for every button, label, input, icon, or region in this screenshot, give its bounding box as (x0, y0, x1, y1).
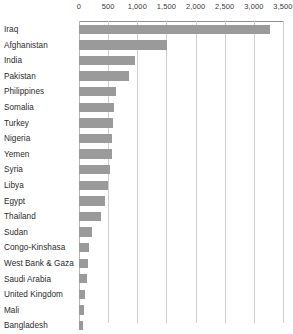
bar-track (79, 318, 283, 334)
chart-rows: IraqAfghanistanIndiaPakistanPhilippinesS… (0, 22, 292, 323)
x-axis-tick-label: 1,000 (128, 2, 147, 11)
bar[interactable] (79, 243, 89, 252)
x-axis-tick-label: 2,000 (186, 2, 205, 11)
bar-track (79, 209, 283, 225)
chart-row: West Bank & Gaza (0, 256, 292, 272)
bar-track (79, 116, 283, 132)
chart-row: Turkey (0, 116, 292, 132)
x-axis-tick-label: 3,500 (273, 2, 292, 11)
bar-track (79, 225, 283, 241)
category-label: Libya (4, 180, 24, 191)
bar-track (79, 69, 283, 85)
category-label: United Kingdom (4, 289, 63, 300)
category-label: Saudi Arabia (4, 274, 51, 285)
bar[interactable] (79, 71, 129, 80)
category-label: Somalia (4, 102, 34, 113)
x-axis-tick-label: 500 (102, 2, 115, 11)
bar[interactable] (79, 259, 88, 268)
category-label: Philippines (4, 86, 44, 97)
bar-track (79, 38, 283, 54)
bar-track (79, 240, 283, 256)
bar[interactable] (79, 196, 105, 205)
bar-track (79, 131, 283, 147)
bar-track (79, 178, 283, 194)
bar[interactable] (79, 305, 84, 314)
category-label: Syria (4, 164, 23, 175)
x-axis-tick-label: 2,500 (215, 2, 234, 11)
bar-track (79, 22, 283, 38)
category-label: Pakistan (4, 71, 36, 82)
chart-row: Nigeria (0, 131, 292, 147)
chart-row: United Kingdom (0, 287, 292, 303)
bar[interactable] (79, 40, 167, 49)
chart-row: India (0, 53, 292, 69)
category-label: Bangladesh (4, 320, 48, 331)
chart-row: Iraq (0, 22, 292, 38)
bar[interactable] (79, 56, 135, 65)
bar[interactable] (79, 165, 110, 174)
category-label: Nigeria (4, 133, 30, 144)
bar-track (79, 100, 283, 116)
category-label: Thailand (4, 211, 36, 222)
category-label: Turkey (4, 118, 29, 129)
bar-track (79, 147, 283, 163)
chart-row: Saudi Arabia (0, 272, 292, 288)
category-label: Congo-Kinshasa (4, 242, 65, 253)
bar[interactable] (79, 25, 270, 34)
bar-track (79, 53, 283, 69)
bar[interactable] (79, 321, 83, 330)
x-axis-tick-label: 1,500 (157, 2, 176, 11)
chart-row: Thailand (0, 209, 292, 225)
category-label: India (4, 55, 22, 66)
chart-row: Libya (0, 178, 292, 194)
chart-row: Somalia (0, 100, 292, 116)
x-axis-tick-label: 3,000 (244, 2, 263, 11)
bar[interactable] (79, 290, 85, 299)
chart-row: Afghanistan (0, 38, 292, 54)
category-label: Iraq (4, 24, 18, 35)
x-axis-tick-label: 0 (77, 2, 81, 11)
bar-track (79, 287, 283, 303)
bar[interactable] (79, 87, 116, 96)
chart-row: Philippines (0, 84, 292, 100)
bar[interactable] (79, 227, 92, 236)
bar[interactable] (79, 118, 113, 127)
bar-track (79, 194, 283, 210)
bar[interactable] (79, 134, 112, 143)
chart-row: Pakistan (0, 69, 292, 85)
bar-track (79, 272, 283, 288)
chart-row: Sudan (0, 225, 292, 241)
chart-row: Bangladesh (0, 318, 292, 334)
bar[interactable] (79, 103, 114, 112)
category-label: Afghanistan (4, 40, 48, 51)
chart-row: Yemen (0, 147, 292, 163)
category-label: Sudan (4, 227, 28, 238)
category-label: Mali (4, 305, 19, 316)
bar[interactable] (79, 274, 87, 283)
category-label: West Bank & Gaza (4, 258, 74, 269)
bar-track (79, 84, 283, 100)
chart-row: Mali (0, 303, 292, 319)
x-axis: 05001,0001,5002,0002,5003,0003,500 (0, 0, 292, 22)
category-label: Egypt (4, 196, 25, 207)
bar[interactable] (79, 212, 101, 221)
bar-track (79, 162, 283, 178)
chart-row: Egypt (0, 194, 292, 210)
bar[interactable] (79, 149, 112, 158)
bar[interactable] (79, 181, 108, 190)
chart-row: Syria (0, 162, 292, 178)
bar-track (79, 303, 283, 319)
bar-track (79, 256, 283, 272)
category-label: Yemen (4, 149, 29, 160)
chart-row: Congo-Kinshasa (0, 240, 292, 256)
